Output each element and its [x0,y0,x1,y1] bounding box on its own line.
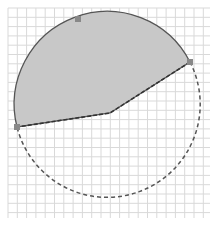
diagram-canvas [0,0,219,226]
geometry-diagram [0,0,219,226]
shaded-region [14,11,190,127]
point-marker-top [75,16,81,22]
point-marker-right [187,59,193,65]
point-marker-left [14,124,20,130]
